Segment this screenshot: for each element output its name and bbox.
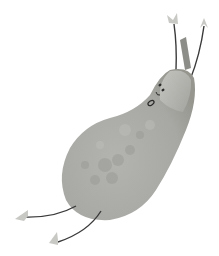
left-arm xyxy=(167,13,178,70)
left-hand-icon xyxy=(167,13,178,24)
pear-illustration xyxy=(0,0,219,256)
right-foot-icon xyxy=(49,232,58,245)
right-arm xyxy=(190,18,208,80)
left-leg xyxy=(15,206,76,221)
stem xyxy=(180,37,191,70)
pear-character xyxy=(0,0,219,256)
left-foot-icon xyxy=(15,210,28,221)
